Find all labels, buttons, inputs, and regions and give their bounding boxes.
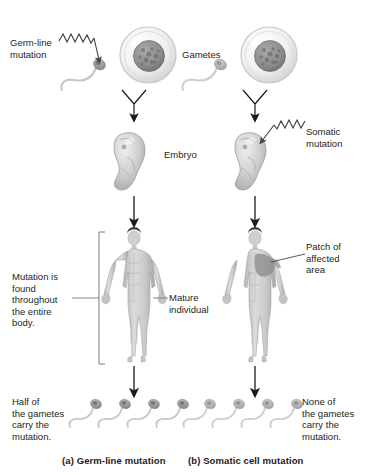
left-gamete-group xyxy=(69,398,189,427)
left-mature-body xyxy=(102,227,167,362)
somatic-mutation-label: Somatic mutation xyxy=(306,126,366,149)
mutation-body-label: Mutation is found throughout the entire … xyxy=(12,271,74,329)
right-gamete-group xyxy=(183,398,303,427)
figure-canvas: Germ-line mutation Gametes Embryo Somati… xyxy=(0,0,370,475)
patch-leader-line xyxy=(271,254,305,262)
left-embryo xyxy=(114,133,145,190)
germline-mutation-label: Germ-line mutation xyxy=(10,37,80,60)
patch-affected-label: Patch of affected area xyxy=(306,241,366,276)
left-sperm-mutant xyxy=(62,57,108,90)
left-body-bracket xyxy=(72,232,105,364)
left-gamete-outcome-label: Half of the gametes carry the mutation. xyxy=(12,396,80,442)
right-mature-body xyxy=(223,227,288,362)
caption-panel-a: (a) Germ-line mutation xyxy=(62,455,166,466)
left-egg-cell xyxy=(120,27,176,83)
somatic-mutation-zigzag xyxy=(262,120,305,141)
right-embryo xyxy=(235,133,266,190)
left-fertilization-arrow xyxy=(122,90,146,117)
right-fertilization-arrow xyxy=(243,90,267,117)
caption-panel-b: (b) Somatic cell mutation xyxy=(188,455,303,466)
right-gamete-outcome-label: None of the gametes carry the mutation. xyxy=(302,396,368,442)
embryo-label: Embryo xyxy=(164,149,197,161)
gametes-label: Gametes xyxy=(182,49,221,61)
right-sperm-normal xyxy=(183,57,229,90)
right-egg-cell xyxy=(241,27,297,83)
mature-individual-label: Mature individual xyxy=(169,292,217,315)
